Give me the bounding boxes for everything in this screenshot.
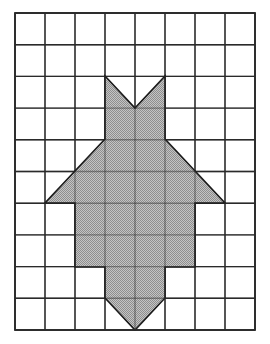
figure-container <box>0 0 270 344</box>
grid-polygon-figure <box>0 0 270 344</box>
